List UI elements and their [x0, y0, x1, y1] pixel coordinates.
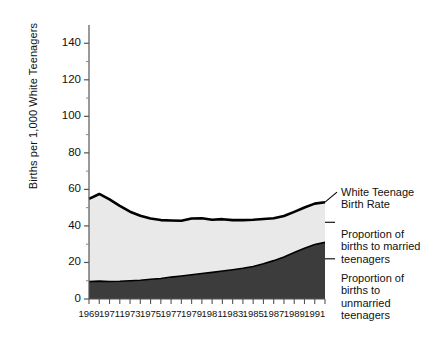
legend-leader-line: [325, 192, 337, 202]
chart-figure: Births per 1,000 White Teenagers 0204060…: [0, 0, 444, 351]
legend-item-1: White Teenage Birth Rate: [341, 186, 444, 211]
legend-item-2: Proportion of births to married teenager…: [341, 228, 444, 265]
legend-item-3: Proportion of births to unmarried teenag…: [341, 272, 444, 322]
